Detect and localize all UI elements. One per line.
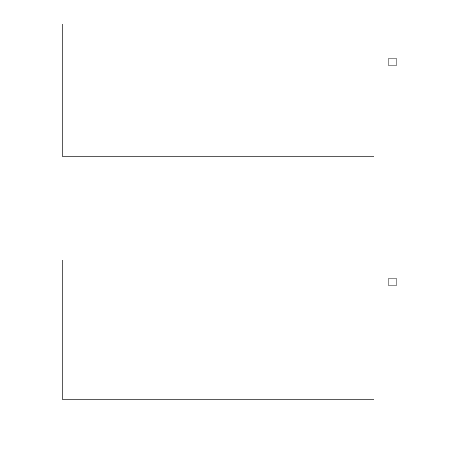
top-chart-group-axis [62, 220, 374, 236]
top-chart-category-axis [62, 158, 374, 220]
bottom-grouped-column-chart [0, 248, 476, 458]
bottom-chart-legend [388, 278, 397, 286]
bottom-chart-plot-area [62, 260, 374, 400]
top-chart-legend [388, 58, 397, 66]
top-chart-plot-area [62, 24, 374, 157]
top-stacked-column-chart [0, 0, 476, 248]
